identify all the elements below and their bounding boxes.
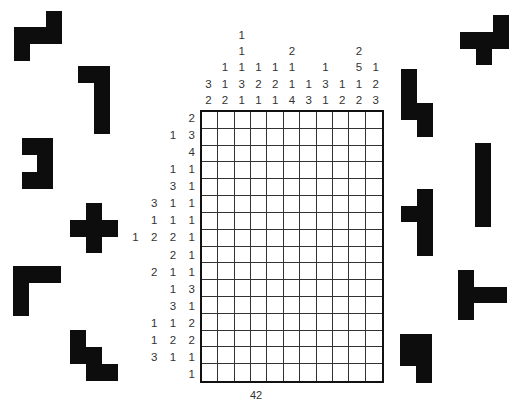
grid-cell[interactable] [202, 230, 218, 247]
grid-cell[interactable] [202, 280, 218, 297]
grid-cell[interactable] [300, 263, 316, 280]
grid-cell[interactable] [300, 297, 316, 314]
grid-cell[interactable] [349, 364, 365, 381]
nonogram-grid[interactable] [200, 110, 384, 383]
grid-cell[interactable] [267, 364, 283, 381]
grid-cell[interactable] [300, 213, 316, 230]
grid-cell[interactable] [366, 331, 382, 348]
grid-cell[interactable] [251, 112, 267, 129]
grid-cell[interactable] [267, 331, 283, 348]
grid-cell[interactable] [317, 213, 333, 230]
grid-cell[interactable] [202, 196, 218, 213]
grid-cell[interactable] [300, 162, 316, 179]
grid-cell[interactable] [333, 129, 349, 146]
grid-cell[interactable] [284, 196, 300, 213]
grid-cell[interactable] [267, 347, 283, 364]
grid-cell[interactable] [366, 162, 382, 179]
grid-cell[interactable] [202, 263, 218, 280]
grid-cell[interactable] [235, 213, 251, 230]
grid-cell[interactable] [267, 196, 283, 213]
grid-cell[interactable] [366, 364, 382, 381]
grid-cell[interactable] [235, 230, 251, 247]
grid-cell[interactable] [267, 179, 283, 196]
grid-cell[interactable] [366, 263, 382, 280]
grid-cell[interactable] [218, 230, 234, 247]
grid-cell[interactable] [202, 162, 218, 179]
grid-cell[interactable] [251, 314, 267, 331]
grid-cell[interactable] [284, 314, 300, 331]
grid-cell[interactable] [267, 129, 283, 146]
grid-cell[interactable] [251, 230, 267, 247]
grid-cell[interactable] [284, 247, 300, 264]
grid-cell[interactable] [218, 129, 234, 146]
grid-cell[interactable] [251, 364, 267, 381]
grid-cell[interactable] [235, 247, 251, 264]
grid-cell[interactable] [284, 129, 300, 146]
grid-cell[interactable] [202, 297, 218, 314]
grid-cell[interactable] [267, 230, 283, 247]
grid-cell[interactable] [366, 179, 382, 196]
grid-cell[interactable] [251, 213, 267, 230]
grid-cell[interactable] [333, 280, 349, 297]
grid-cell[interactable] [251, 247, 267, 264]
grid-cell[interactable] [218, 331, 234, 348]
grid-cell[interactable] [349, 179, 365, 196]
grid-cell[interactable] [317, 314, 333, 331]
grid-cell[interactable] [235, 347, 251, 364]
grid-cell[interactable] [218, 112, 234, 129]
grid-cell[interactable] [333, 213, 349, 230]
grid-cell[interactable] [317, 129, 333, 146]
grid-cell[interactable] [317, 247, 333, 264]
grid-cell[interactable] [317, 230, 333, 247]
grid-cell[interactable] [235, 196, 251, 213]
grid-cell[interactable] [202, 213, 218, 230]
grid-cell[interactable] [317, 331, 333, 348]
grid-cell[interactable] [202, 146, 218, 163]
grid-cell[interactable] [349, 112, 365, 129]
grid-cell[interactable] [235, 179, 251, 196]
grid-cell[interactable] [284, 179, 300, 196]
grid-cell[interactable] [349, 263, 365, 280]
grid-cell[interactable] [366, 297, 382, 314]
grid-cell[interactable] [284, 146, 300, 163]
grid-cell[interactable] [349, 314, 365, 331]
grid-cell[interactable] [235, 146, 251, 163]
grid-cell[interactable] [218, 364, 234, 381]
grid-cell[interactable] [349, 347, 365, 364]
grid-cell[interactable] [333, 230, 349, 247]
grid-cell[interactable] [317, 297, 333, 314]
grid-cell[interactable] [235, 263, 251, 280]
grid-cell[interactable] [218, 247, 234, 264]
grid-cell[interactable] [317, 280, 333, 297]
grid-cell[interactable] [202, 179, 218, 196]
grid-cell[interactable] [218, 162, 234, 179]
grid-cell[interactable] [366, 247, 382, 264]
grid-cell[interactable] [300, 347, 316, 364]
grid-cell[interactable] [349, 331, 365, 348]
grid-cell[interactable] [267, 213, 283, 230]
grid-cell[interactable] [366, 347, 382, 364]
grid-cell[interactable] [284, 213, 300, 230]
grid-cell[interactable] [235, 112, 251, 129]
grid-cell[interactable] [333, 179, 349, 196]
grid-cell[interactable] [267, 162, 283, 179]
grid-cell[interactable] [251, 146, 267, 163]
grid-cell[interactable] [202, 247, 218, 264]
grid-cell[interactable] [349, 247, 365, 264]
grid-cell[interactable] [317, 263, 333, 280]
grid-cell[interactable] [284, 347, 300, 364]
grid-cell[interactable] [202, 112, 218, 129]
grid-cell[interactable] [284, 297, 300, 314]
grid-cell[interactable] [218, 146, 234, 163]
grid-cell[interactable] [251, 179, 267, 196]
grid-cell[interactable] [267, 247, 283, 264]
grid-cell[interactable] [300, 129, 316, 146]
grid-cell[interactable] [284, 162, 300, 179]
grid-cell[interactable] [333, 331, 349, 348]
grid-cell[interactable] [317, 196, 333, 213]
grid-cell[interactable] [300, 112, 316, 129]
grid-cell[interactable] [349, 280, 365, 297]
grid-cell[interactable] [218, 263, 234, 280]
grid-cell[interactable] [317, 162, 333, 179]
grid-cell[interactable] [251, 129, 267, 146]
